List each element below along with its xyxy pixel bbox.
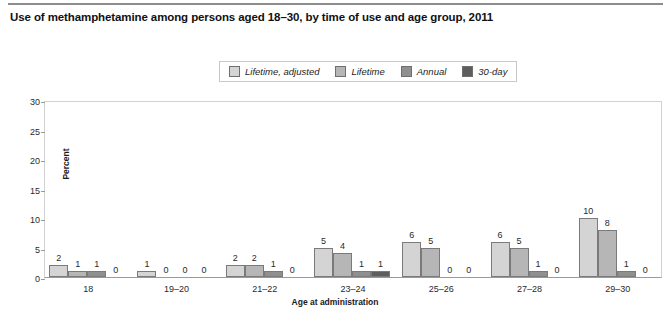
bar-value-label: 4 [333,241,352,251]
legend-item-label: Lifetime [351,66,384,77]
legend-swatch-icon [229,66,240,77]
bar-value-label: 0 [548,265,567,275]
bar[interactable] [264,271,283,277]
bar-value-label: 5 [510,236,529,246]
bar[interactable] [352,271,371,277]
legend-swatch-icon [462,66,473,77]
bar-value-label: 0 [283,265,302,275]
bar-value-label: 10 [579,206,598,216]
bar-value-label: 1 [264,259,283,269]
y-axis-tick-label: 30 [19,97,40,107]
bar[interactable] [510,248,529,278]
chart-title: Use of methamphetamine among persons age… [10,11,493,23]
chart-figure: Use of methamphetamine among persons age… [0,0,670,318]
x-axis-tick-label: 23–24 [308,284,398,294]
y-axis-tick-label: 20 [19,156,40,166]
legend-item[interactable]: Lifetime, adjusted [229,66,319,77]
bar-value-label: 1 [352,259,371,269]
bar[interactable] [245,265,264,277]
y-axis-tick-label: 25 [19,127,40,137]
bar-value-label: 0 [636,265,655,275]
y-axis-tick-label: 10 [19,215,40,225]
bar[interactable] [68,271,87,277]
legend-item-label: Lifetime, adjusted [245,66,319,77]
bar-group: 2110 [45,102,133,277]
bar-value-label: 0 [459,265,478,275]
bar-value-label: 1 [371,259,390,269]
bar-group: 10810 [575,102,663,277]
x-axis-tick-label: 25–26 [396,284,486,294]
x-axis-tick-label: 18 [43,284,133,294]
bar-value-label: 6 [491,230,510,240]
bar-value-label: 1 [529,259,548,269]
bar[interactable] [421,248,440,278]
plot-area: Percent 05101520253021101000221054116500… [44,101,662,278]
x-axis-tick-label: 21–22 [220,284,310,294]
y-axis-tick-label: 5 [19,245,40,255]
bar[interactable] [137,271,156,277]
bar-group: 6510 [486,102,574,277]
bar-value-label: 1 [87,259,106,269]
bar-value-label: 0 [194,265,213,275]
bar[interactable] [333,253,352,277]
bar-value-label: 2 [226,253,245,263]
y-axis-tick-label: 0 [19,274,40,284]
bar[interactable] [598,230,617,277]
bar-value-label: 2 [49,253,68,263]
legend-item[interactable]: Annual [401,66,447,77]
x-axis-title: Age at administration [0,297,670,307]
legend-swatch-icon [335,66,346,77]
bar[interactable] [314,248,333,278]
legend-swatch-icon [401,66,412,77]
bar[interactable] [402,242,421,277]
bar-group: 5411 [310,102,398,277]
bar-value-label: 0 [106,265,125,275]
bar-group: 1000 [133,102,221,277]
bar-value-label: 0 [175,265,194,275]
bar-value-label: 1 [617,259,636,269]
bar-value-label: 0 [440,265,459,275]
x-axis-tick-label: 27–28 [485,284,575,294]
legend-item[interactable]: Lifetime [335,66,384,77]
bar[interactable] [226,265,245,277]
legend-item[interactable]: 30-day [462,66,507,77]
bar[interactable] [87,271,106,277]
bar-value-label: 5 [314,236,333,246]
legend-item-label: 30-day [478,66,507,77]
bar-value-label: 1 [68,259,87,269]
legend-item-label: Annual [417,66,447,77]
bar[interactable] [579,218,598,277]
bar[interactable] [371,271,390,277]
bar-value-label: 0 [156,265,175,275]
chart-legend: Lifetime, adjustedLifetimeAnnual30-day [219,61,517,82]
bar-value-label: 1 [137,259,156,269]
bar[interactable] [529,271,548,277]
bar-value-label: 5 [421,236,440,246]
bar-value-label: 6 [402,230,421,240]
x-axis-tick-label: 19–20 [131,284,221,294]
bar-group: 2210 [222,102,310,277]
x-axis-tick-label: 29–30 [573,284,663,294]
bar-value-label: 2 [245,253,264,263]
bar[interactable] [491,242,510,277]
bar-group: 6500 [398,102,486,277]
y-axis-tick-label: 15 [19,186,40,196]
y-axis-tick-mark [41,279,45,280]
bar[interactable] [617,271,636,277]
header-rule [8,3,663,5]
bar-value-label: 8 [598,218,617,228]
bar[interactable] [49,265,68,277]
